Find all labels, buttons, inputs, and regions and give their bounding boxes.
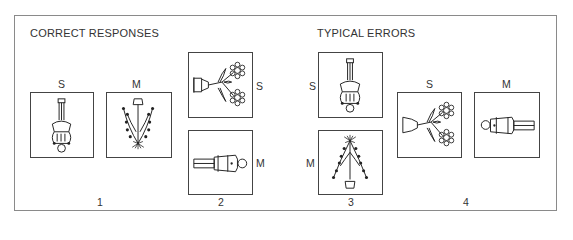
label-2-m: M — [256, 157, 265, 169]
heading-typical-errors: TYPICAL ERRORS — [317, 27, 415, 39]
christmas-tree-icon — [107, 93, 171, 157]
panel-2-s — [188, 52, 253, 118]
group-number-2: 2 — [218, 196, 224, 208]
label-1-s: S — [58, 78, 65, 90]
person-icon — [189, 131, 252, 194]
christmas-tree-icon — [319, 131, 382, 194]
group-number-3: 3 — [348, 196, 354, 208]
group-number-4: 4 — [463, 196, 469, 208]
person-inverted-icon — [31, 93, 93, 157]
flowerpot-icon — [189, 53, 252, 117]
panel-2-m — [188, 130, 253, 195]
label-2-s: S — [256, 80, 263, 92]
flowerpot-icon — [398, 93, 461, 157]
label-4-s: S — [426, 78, 433, 90]
label-3-s: S — [309, 80, 316, 92]
panel-3-m — [318, 130, 383, 195]
panel-3-s — [318, 52, 383, 118]
panel-1-s — [30, 92, 94, 158]
group-number-1: 1 — [97, 196, 103, 208]
person-icon — [475, 93, 539, 157]
person-inverted-icon — [319, 53, 382, 117]
panel-4-s — [397, 92, 462, 158]
panel-1-m — [106, 92, 172, 158]
heading-correct-responses: CORRECT RESPONSES — [30, 27, 159, 39]
label-3-m: M — [306, 157, 315, 169]
label-1-m: M — [132, 78, 141, 90]
label-4-m: M — [502, 78, 511, 90]
panel-4-m — [474, 92, 540, 158]
